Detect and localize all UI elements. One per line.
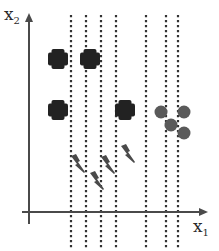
x-axis-label-subscript: 1: [203, 227, 209, 238]
y-axis-arrowhead-icon: [25, 13, 33, 22]
y-axis-label-subscript: 2: [14, 15, 20, 26]
circle-point-4: [178, 127, 191, 140]
x-axis-label: x1: [193, 216, 209, 238]
circle-point-2: [178, 106, 191, 119]
cross-point-4: [115, 100, 135, 120]
class-circle-points: [155, 106, 191, 140]
circle-point-1: [155, 106, 168, 119]
feature-space-diagram: x2 x1: [0, 0, 219, 251]
class-bolt-points: [71, 144, 135, 190]
class-cross-points: [48, 49, 135, 120]
x-axis-arrowhead-icon: [199, 208, 208, 216]
lightning-bolt-icon-1: [71, 154, 85, 173]
y-axis-label-main: x: [4, 4, 14, 24]
cross-point-2: [80, 49, 100, 69]
cross-point-1: [48, 49, 68, 69]
circle-point-3: [165, 119, 178, 132]
cross-point-3: [48, 100, 68, 120]
x-axis-label-main: x: [193, 216, 203, 236]
lightning-bolt-icon-3: [101, 155, 115, 174]
y-axis-label: x2: [4, 4, 20, 26]
lightning-bolt-icon-4: [121, 144, 135, 163]
